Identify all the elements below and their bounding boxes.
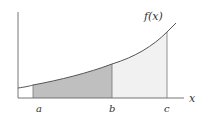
point-label-a: a	[36, 103, 42, 114]
region-a-to-b	[33, 64, 112, 98]
area-under-curve-diagram: f(x) x a b c	[0, 0, 207, 115]
region-b-to-c	[112, 32, 167, 98]
point-label-c: c	[164, 103, 170, 114]
x-axis-label: x	[189, 92, 196, 105]
point-label-b: b	[109, 103, 115, 114]
function-label: f(x)	[143, 10, 163, 23]
